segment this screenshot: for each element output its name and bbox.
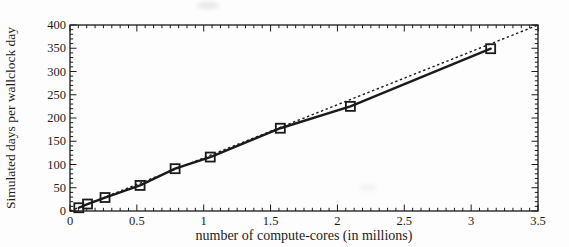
scaling-chart: 00.511.522.533.5050100150200250300350400… bbox=[0, 0, 569, 247]
y-axis-label: Simulated days per wallclock day bbox=[3, 27, 18, 209]
ideal-scaling-line bbox=[70, 25, 538, 211]
x-tick-label: 2 bbox=[334, 214, 340, 228]
scaling-figure: 00.511.522.533.5050100150200250300350400… bbox=[0, 0, 569, 247]
x-tick-label: 2.5 bbox=[396, 214, 412, 228]
x-tick-label: 1 bbox=[201, 214, 207, 228]
y-tick-label: 400 bbox=[47, 18, 66, 32]
x-tick-label: 3 bbox=[468, 214, 474, 228]
x-tick-label: 1.5 bbox=[263, 214, 279, 228]
x-tick-label: 0 bbox=[67, 214, 73, 228]
y-tick-label: 100 bbox=[47, 158, 66, 172]
y-tick-label: 150 bbox=[47, 134, 66, 148]
y-tick-label: 300 bbox=[47, 65, 66, 79]
plot-area: 00.511.522.533.5050100150200250300350400 bbox=[47, 18, 546, 228]
x-tick-label: 3.5 bbox=[530, 214, 546, 228]
x-tick-label: 0.5 bbox=[129, 214, 145, 228]
y-tick-label: 50 bbox=[54, 181, 67, 195]
y-tick-label: 0 bbox=[60, 204, 66, 218]
y-tick-label: 250 bbox=[47, 88, 66, 102]
x-axis-label: number of compute-cores (in millions) bbox=[196, 228, 413, 244]
y-tick-label: 200 bbox=[47, 111, 66, 125]
y-tick-label: 350 bbox=[47, 41, 66, 55]
